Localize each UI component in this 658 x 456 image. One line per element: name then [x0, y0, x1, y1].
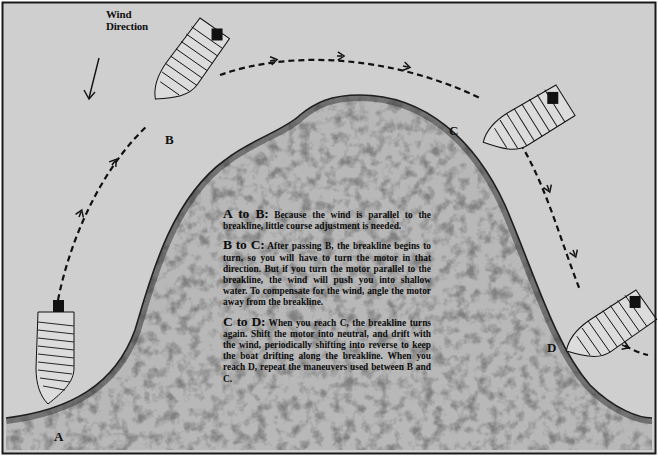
- point-c-label: C: [449, 123, 458, 139]
- point-a-label: A: [54, 429, 63, 445]
- instruction-heading: B to C:: [223, 237, 264, 252]
- point-b-label: B: [165, 132, 174, 148]
- instruction-b-to-c: B to C: After passing B, the breakline b…: [223, 239, 431, 308]
- wind-label-line2: Direction: [106, 20, 148, 32]
- instructions-text-block: A to B: Because the wind is parallel to …: [223, 208, 431, 392]
- wind-direction-label: Wind Direction: [106, 8, 148, 32]
- point-d-label: D: [547, 340, 556, 356]
- instruction-a-to-b: A to B: Because the wind is parallel to …: [223, 208, 431, 232]
- wind-label-line1: Wind: [106, 8, 148, 20]
- instruction-heading: C to D:: [223, 314, 265, 329]
- instruction-c-to-d: C to D: When you reach C, the breakline …: [223, 316, 431, 385]
- instruction-heading: A to B:: [223, 206, 268, 221]
